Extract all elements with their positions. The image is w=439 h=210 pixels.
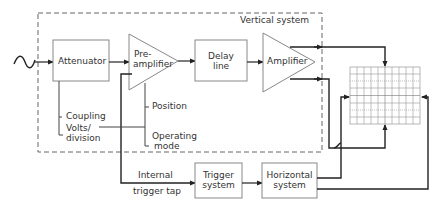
coupling-control-label: Coupling xyxy=(66,111,106,122)
oscilloscope-block-diagram: Vertical system Attenuator Pre- amplifie… xyxy=(0,0,439,210)
horizontal-system-label-line2: system xyxy=(262,180,317,191)
vertical-system-label: Vertical system xyxy=(240,15,309,26)
position-control-label: Position xyxy=(152,101,187,112)
delay-line-label-line2: line xyxy=(195,61,247,72)
operating-mode-label-line2: mode xyxy=(154,141,180,152)
amplifier-label: Amplifier xyxy=(267,56,308,67)
trigger-system-label-line2: system xyxy=(195,180,242,191)
crt-graticule xyxy=(350,67,420,124)
attenuator-label: Attenuator xyxy=(58,56,106,67)
preamplifier-label-line2: amplifier xyxy=(133,59,173,70)
internal-trigger-label-line2: trigger tap xyxy=(133,186,181,197)
internal-trigger-label-line1: Internal xyxy=(138,170,173,181)
volts-division-label-line2: division xyxy=(66,133,100,144)
ac-input-icon xyxy=(14,56,35,68)
